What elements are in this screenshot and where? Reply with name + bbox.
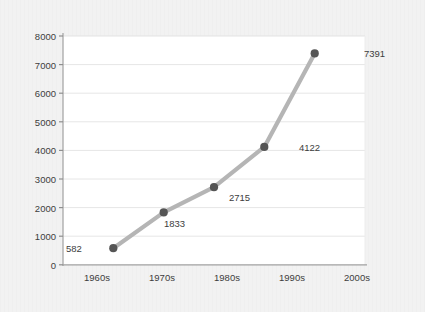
data-point-1980s[interactable] [210,183,218,191]
y-tick-label-1000: 1000 [22,232,56,242]
data-point-1990s[interactable] [260,143,268,151]
data-label-1970s: 1833 [164,219,185,229]
x-tick-label-1980s: 1980s [197,273,257,283]
data-label-2000s: 7391 [364,49,385,59]
x-tick-label-1970s: 1970s [132,273,192,283]
y-tick-label-8000: 8000 [22,32,56,42]
data-label-1980s: 2715 [229,193,250,203]
y-tick-label-2000: 2000 [22,204,56,214]
data-point-1970s[interactable] [160,208,168,216]
x-tick-label-1960s: 1960s [67,273,127,283]
data-point-1960s[interactable] [109,244,117,252]
data-label-1990s: 4122 [299,143,320,153]
data-label-1960s: 582 [66,244,82,254]
data-point-2000s[interactable] [311,49,319,57]
x-tick-label-1990s: 1990s [262,273,322,283]
y-tick-label-7000: 7000 [22,61,56,71]
x-tick-label-2000s: 2000s [327,273,387,283]
line-chart-plot [0,0,425,312]
y-tick-label-6000: 6000 [22,89,56,99]
y-tick-label-4000: 4000 [22,146,56,156]
y-tick-label-5000: 5000 [22,118,56,128]
y-tick-label-0: 0 [22,261,56,271]
chart-figure: 8000 7000 6000 5000 4000 3000 2000 1000 … [0,0,425,312]
y-tick-label-3000: 3000 [22,175,56,185]
